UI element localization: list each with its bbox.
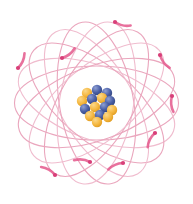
proton-sphere (92, 117, 102, 127)
proton-sphere (103, 112, 113, 122)
electron-dot (16, 66, 20, 70)
electron-dot (88, 160, 92, 164)
electron-dot (60, 56, 64, 60)
electron-dot (158, 53, 162, 57)
electron-dot (153, 131, 157, 135)
electron-dot (170, 94, 174, 98)
atom-illustration (0, 0, 193, 204)
electron-dot (53, 173, 57, 177)
electron-dot (121, 161, 125, 165)
electron-dot (113, 20, 117, 24)
atom-svg (0, 0, 193, 204)
